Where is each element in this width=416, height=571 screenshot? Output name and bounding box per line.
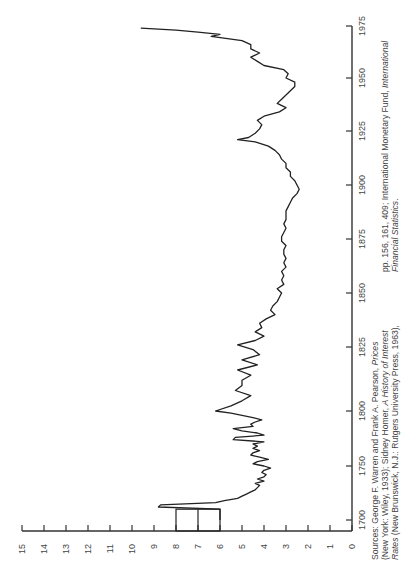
source-line-3: Rates (New Brunswick, N.J.: Rutgers Univ… — [390, 325, 400, 560]
value-tick-label: 7 — [193, 544, 203, 549]
source-line-2: (New York: Wiley, 1933); Sidney Homer, A… — [380, 330, 390, 560]
year-tick-label: 1900 — [357, 175, 367, 195]
source-line-5: Financial Statistics. — [390, 198, 400, 272]
value-tick-label: 3 — [281, 544, 291, 549]
early-rate-box — [176, 509, 220, 531]
value-tick-label: 5 — [237, 544, 247, 549]
value-tick-label: 4 — [259, 544, 269, 549]
value-tick-label: 11 — [105, 544, 115, 553]
year-tick-label: 1950 — [357, 68, 367, 88]
year-tick-label: 1700 — [357, 510, 367, 530]
year-tick-label: 1975 — [357, 16, 367, 36]
source-line-4: pp. 156, 161, 409; International Monetar… — [380, 40, 390, 272]
value-tick-label: 14 — [39, 544, 49, 554]
value-tick-label: 12 — [83, 544, 93, 554]
year-tick-label: 1825 — [357, 337, 367, 357]
year-tick-label: 1750 — [357, 456, 367, 476]
value-tick-label: 0 — [347, 544, 357, 549]
interest-rate-line — [141, 28, 299, 520]
chart-axes: 0123456789101112131415170017501800182518… — [17, 16, 367, 554]
value-tick-label: 9 — [149, 544, 159, 549]
source-line-1: Sources: George F. Warren and Frank A. P… — [370, 341, 380, 560]
year-tick-label: 1925 — [357, 121, 367, 141]
year-tick-label: 1800 — [357, 401, 367, 421]
value-tick-label: 15 — [17, 544, 27, 554]
year-tick-label: 1875 — [357, 229, 367, 249]
sources-note: Sources: George F. Warren and Frank A. P… — [370, 40, 400, 560]
value-tick-label: 6 — [215, 544, 225, 549]
year-tick-label: 1850 — [357, 283, 367, 303]
value-tick-label: 10 — [127, 544, 137, 554]
value-tick-label: 13 — [61, 544, 71, 554]
value-tick-label: 2 — [303, 544, 313, 549]
value-tick-label: 1 — [325, 544, 335, 549]
value-tick-label: 8 — [171, 544, 181, 549]
interest-rate-chart: 0123456789101112131415170017501800182518… — [0, 0, 416, 571]
